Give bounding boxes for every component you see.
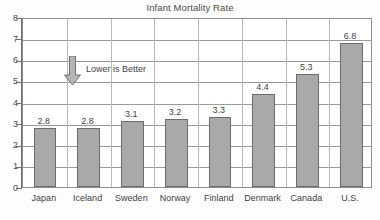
category-divider <box>154 19 155 187</box>
bar-finland[interactable] <box>209 117 232 187</box>
bar-value-label: 2.8 <box>22 117 66 126</box>
category-divider <box>111 19 112 187</box>
category-divider <box>242 19 243 187</box>
chart-container: Infant Mortality Rate 012345678 Lower is… <box>0 0 380 220</box>
bar-value-label: 5.3 <box>285 63 329 72</box>
bar-canada[interactable] <box>296 74 319 187</box>
bar-japan[interactable] <box>34 128 57 188</box>
y-axis-tick-mark <box>16 188 22 189</box>
down-arrow-icon <box>64 56 82 86</box>
x-axis-category-label: Canada <box>285 194 329 203</box>
bar-value-label: 3.3 <box>197 106 241 115</box>
x-axis-category-label: Sweden <box>110 194 154 203</box>
x-axis-category-label: Denmark <box>241 194 285 203</box>
bar-value-label: 4.4 <box>241 83 285 92</box>
category-divider <box>67 19 68 187</box>
bar-value-label: 3.2 <box>153 108 197 117</box>
gridline <box>23 167 371 168</box>
bar-norway[interactable] <box>165 119 188 187</box>
x-axis-category-label: Iceland <box>66 194 110 203</box>
bar-value-label: 6.8 <box>328 32 372 41</box>
gridline <box>23 40 371 41</box>
annotation-label: Lower is Better <box>86 64 146 74</box>
category-divider <box>286 19 287 187</box>
gridline <box>23 146 371 147</box>
bar-value-label: 2.8 <box>66 117 110 126</box>
x-axis-category-label: Japan <box>22 194 66 203</box>
bar-value-label: 3.1 <box>110 110 154 119</box>
x-axis-category-label: Finland <box>197 194 241 203</box>
gridline <box>23 104 371 105</box>
plot-area <box>22 18 372 188</box>
x-axis-category-label: U.S. <box>328 194 372 203</box>
category-divider <box>329 19 330 187</box>
x-axis-category-label: Norway <box>153 194 197 203</box>
bar-iceland[interactable] <box>77 128 100 188</box>
chart-title: Infant Mortality Rate <box>0 2 380 13</box>
category-divider <box>198 19 199 187</box>
bar-u-s[interactable] <box>340 43 363 188</box>
bar-sweden[interactable] <box>121 121 144 187</box>
bar-denmark[interactable] <box>252 94 275 188</box>
